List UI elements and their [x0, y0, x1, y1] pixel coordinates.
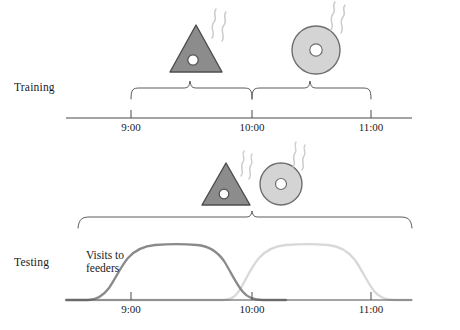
training-panel — [66, 2, 412, 118]
training-row-label: Training — [14, 81, 55, 93]
testing-panel — [66, 142, 412, 300]
training-tick-label-11: 11:00 — [359, 121, 384, 133]
training-triangle-feeder — [170, 9, 226, 72]
brace-9-to-10 — [131, 81, 252, 99]
circle-feeder-hole — [310, 44, 322, 56]
scent-wave-icon — [212, 9, 216, 38]
scent-wave-icon — [331, 2, 335, 30]
testing-triangle-feeder — [202, 151, 252, 205]
testing-circle-feeder — [260, 142, 305, 205]
testing-tick-label-11: 11:00 — [359, 303, 384, 315]
triangle-feeder-hole — [188, 55, 198, 65]
scent-wave-icon — [249, 154, 252, 179]
training-tick-label-9: 9:00 — [121, 121, 141, 133]
scent-wave-icon — [341, 5, 345, 33]
testing-tick-label-10: 10:00 — [239, 303, 264, 315]
figure-container: Training Testing Visits to feeders 9:00 … — [0, 0, 460, 330]
scent-wave-icon — [222, 12, 226, 41]
triangle-feeder-hole — [219, 189, 229, 199]
visits-label-line1: Visits to — [86, 249, 124, 262]
scent-wave-icon — [302, 145, 305, 170]
scent-wave-icon — [241, 151, 244, 176]
training-circle-feeder — [292, 2, 345, 74]
testing-row-label: Testing — [14, 256, 49, 268]
visits-to-feeders-label: Visits to feeders — [86, 249, 124, 274]
brace-full-span — [78, 211, 412, 228]
figure-canvas — [0, 0, 460, 330]
training-tick-label-10: 10:00 — [239, 121, 264, 133]
brace-10-to-11 — [252, 81, 371, 99]
scent-wave-icon — [293, 142, 296, 167]
visits-label-line2: feeders — [86, 262, 124, 275]
testing-tick-label-9: 9:00 — [121, 303, 141, 315]
circle-feeder-hole — [276, 179, 287, 190]
